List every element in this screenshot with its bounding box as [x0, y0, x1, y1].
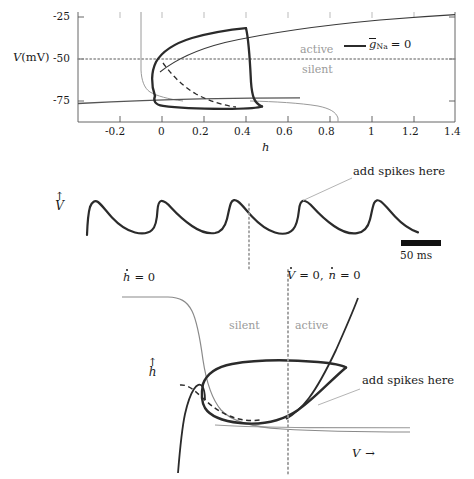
- h-nullcline-one-curve: [250, 101, 338, 122]
- legend-subscript: Na: [376, 42, 387, 51]
- v-nullcline-right-branch: [286, 298, 358, 419]
- bottom-x-symbol: V: [352, 446, 360, 460]
- h-nullcline-symbol: h: [123, 272, 130, 284]
- bottom-x-arrow: →: [365, 446, 375, 460]
- bottom-region-active-label: active: [295, 320, 328, 331]
- voltage-trace-curve: [87, 200, 418, 235]
- limit-cycle-termination: [246, 28, 262, 106]
- top-region-silent-label: silent: [302, 64, 333, 75]
- top-x-tick-2: 0: [158, 126, 165, 137]
- bottom-region-silent-label: silent: [229, 320, 260, 331]
- annotation-leader-line-middle: [303, 178, 352, 201]
- unstable-manifold-dashed: [180, 385, 260, 421]
- burst-trajectory-lower: [202, 368, 346, 424]
- top-x-tick-4: 0.4: [234, 126, 251, 137]
- top-y-tick-1: -25: [53, 11, 70, 22]
- scale-bar-label: 50 ms: [400, 250, 432, 261]
- top-x-tick-9: 1.4: [444, 126, 461, 137]
- top-x-tick-5: 0.6: [276, 126, 293, 137]
- lower-stable-branch: [78, 98, 300, 104]
- top-y-tick-3: -75: [53, 95, 70, 106]
- middle-y-axis-label: ↑ V: [55, 192, 64, 212]
- legend-equals: = 0: [391, 37, 412, 51]
- top-tick-marks: [120, 12, 414, 18]
- bottom-v-nullcline-label: V= 0,n= 0: [287, 270, 361, 282]
- plot-frame: [78, 12, 455, 122]
- top-x-tick-6: 0.8: [318, 126, 335, 137]
- top-y-tick-2: -50: [53, 53, 70, 64]
- v-nullcline-mid: = 0,: [299, 268, 323, 282]
- bottom-h-nullcline-label: h= 0: [123, 272, 155, 284]
- h-nullcline-rest: = 0: [134, 270, 155, 284]
- bottom-x-axis-label: V→: [352, 448, 375, 460]
- h-nullcline-curve: [122, 297, 410, 432]
- top-x-tick-1: -0.2: [105, 126, 125, 137]
- bottom-tick-marks: [120, 116, 414, 122]
- bottom-y-symbol: h: [149, 367, 157, 377]
- legend-symbol: g: [369, 39, 376, 51]
- legend-swatch-line: [344, 45, 366, 48]
- n-nullcline-rest: = 0: [340, 268, 361, 282]
- middle-y-symbol: V: [55, 201, 64, 211]
- legend-label: gNa= 0: [369, 39, 411, 51]
- h-nullcline-zero-curve: [141, 12, 183, 101]
- top-y-axis-label: V(mV): [13, 52, 50, 64]
- limit-cycle-upper: [152, 28, 246, 96]
- figure-root: V(mV) -25 -50 -75 -0.2 0 0.2 0.4 0.6 0.8…: [0, 0, 474, 479]
- top-x-tick-3: 0.2: [192, 126, 209, 137]
- scale-bar: [401, 240, 441, 246]
- v-nullcline-symbol: V: [287, 270, 295, 282]
- top-region-active-label: active: [300, 44, 333, 55]
- top-x-axis-label: h: [262, 142, 269, 154]
- top-x-tick-8: 1.2: [402, 126, 419, 137]
- unstable-branch-dashed: [163, 63, 236, 107]
- bottom-y-axis-label: ↑ h: [148, 358, 157, 378]
- top-x-tick-7: 1: [368, 126, 375, 137]
- bottom-annotation-add-spikes: add spikes here: [362, 375, 454, 387]
- middle-annotation-add-spikes: add spikes here: [353, 166, 445, 178]
- n-nullcline-symbol: n: [329, 270, 336, 282]
- v-axis-baseline: [215, 425, 410, 428]
- annotation-leader-line-bottom: [318, 389, 360, 405]
